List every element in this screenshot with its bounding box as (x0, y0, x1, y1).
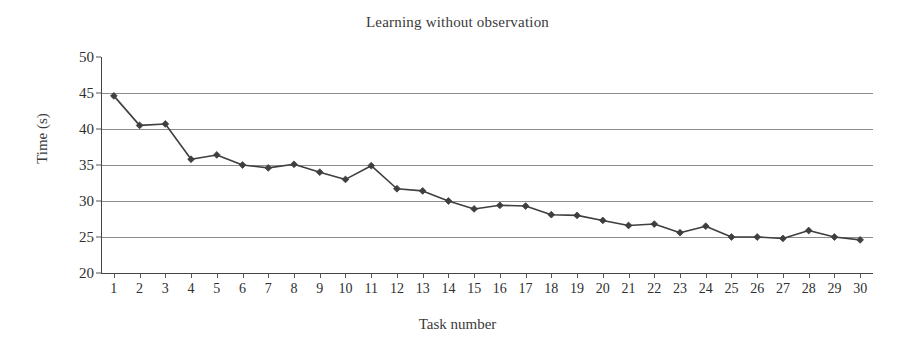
plot-area: 20253035404550 1234567891011121314151617… (101, 57, 873, 273)
x-axis-tick-label: 15 (467, 281, 481, 297)
x-axis-tick (345, 273, 346, 278)
x-axis-tick-label: 1 (110, 281, 117, 297)
data-point-marker (780, 235, 787, 242)
x-axis-tick-label: 2 (136, 281, 143, 297)
x-axis-tick-label: 18 (544, 281, 558, 297)
x-axis-tick (243, 273, 244, 278)
data-point-marker (342, 176, 349, 183)
x-axis-tick (474, 273, 475, 278)
data-point-marker (625, 222, 632, 229)
x-axis-tick (834, 273, 835, 278)
x-axis-tick-label: 5 (213, 281, 220, 297)
data-point-marker (831, 234, 838, 241)
x-axis-tick-label: 25 (724, 281, 738, 297)
x-axis-tick (217, 273, 218, 278)
data-point-marker (805, 227, 812, 234)
x-axis-tick-label: 30 (853, 281, 867, 297)
x-axis-tick-label: 12 (390, 281, 404, 297)
x-axis-tick (500, 273, 501, 278)
x-axis-tick-label: 26 (750, 281, 764, 297)
x-axis-tick (783, 273, 784, 278)
data-point-marker (651, 221, 658, 228)
data-point-marker (239, 162, 246, 169)
data-point-marker (419, 188, 426, 195)
data-point-marker (574, 212, 581, 219)
x-axis-tick (114, 273, 115, 278)
x-axis-tick-label: 22 (647, 281, 661, 297)
data-point-marker (265, 164, 272, 171)
y-axis-tick-label: 30 (79, 193, 94, 210)
x-axis-tick-label: 23 (673, 281, 687, 297)
x-axis-tick (809, 273, 810, 278)
series-line (114, 96, 860, 240)
y-axis-label: Time (s) (34, 79, 51, 199)
x-axis-tick (191, 273, 192, 278)
x-axis-tick (140, 273, 141, 278)
data-point-marker (496, 202, 503, 209)
data-point-marker (213, 152, 220, 159)
data-point-marker (291, 161, 298, 168)
x-axis-tick (320, 273, 321, 278)
x-axis-tick-label: 14 (441, 281, 455, 297)
data-point-marker (471, 206, 478, 213)
x-axis-tick-label: 4 (188, 281, 195, 297)
data-point-marker (728, 234, 735, 241)
data-point-marker (599, 217, 606, 224)
x-axis-tick (268, 273, 269, 278)
x-axis-tick-label: 11 (364, 281, 377, 297)
data-point-marker (754, 234, 761, 241)
data-point-marker (702, 223, 709, 230)
data-point-marker (445, 198, 452, 205)
x-axis-tick-label: 19 (570, 281, 584, 297)
x-axis-tick (423, 273, 424, 278)
data-point-marker (316, 169, 323, 176)
x-axis-tick (603, 273, 604, 278)
x-axis-tick (731, 273, 732, 278)
chart-figure: Learning without observation Time (s) 20… (0, 0, 915, 358)
x-axis-tick (629, 273, 630, 278)
x-axis-tick-label: 13 (416, 281, 430, 297)
y-axis-tick-label: 40 (79, 121, 94, 138)
data-point-marker (677, 229, 684, 236)
x-axis-tick (165, 273, 166, 278)
data-point-marker (857, 236, 864, 243)
x-axis-tick (371, 273, 372, 278)
x-axis-tick (757, 273, 758, 278)
x-axis-tick-label: 7 (265, 281, 272, 297)
x-axis-tick (706, 273, 707, 278)
x-axis-tick-label: 3 (162, 281, 169, 297)
x-axis-tick (577, 273, 578, 278)
y-axis-tick-label: 50 (79, 49, 94, 66)
x-axis-tick-label: 29 (827, 281, 841, 297)
x-axis-tick-label: 10 (338, 281, 352, 297)
x-axis-tick (860, 273, 861, 278)
x-axis-label: Task number (0, 316, 915, 333)
x-axis-tick-label: 17 (519, 281, 533, 297)
x-axis-tick (526, 273, 527, 278)
data-point-marker (548, 211, 555, 218)
x-axis-tick-label: 27 (776, 281, 790, 297)
x-axis-tick-label: 24 (699, 281, 713, 297)
x-axis-tick-label: 28 (802, 281, 816, 297)
y-axis-tick-label: 25 (79, 229, 94, 246)
y-axis-tick-label: 35 (79, 157, 94, 174)
x-axis-tick (680, 273, 681, 278)
x-axis-tick (654, 273, 655, 278)
x-axis-tick (551, 273, 552, 278)
x-axis-tick-label: 20 (596, 281, 610, 297)
data-series-line (101, 57, 873, 273)
x-axis-tick-label: 8 (291, 281, 298, 297)
x-axis-tick-label: 6 (239, 281, 246, 297)
chart-title: Learning without observation (0, 14, 915, 31)
x-axis-tick-label: 9 (316, 281, 323, 297)
y-axis-tick-label: 45 (79, 85, 94, 102)
x-axis-tick (448, 273, 449, 278)
data-point-marker (522, 203, 529, 210)
x-axis-tick-label: 21 (622, 281, 636, 297)
x-axis-tick (397, 273, 398, 278)
x-axis-tick-label: 16 (493, 281, 507, 297)
y-axis-tick-label: 20 (79, 265, 94, 282)
x-axis-tick (294, 273, 295, 278)
